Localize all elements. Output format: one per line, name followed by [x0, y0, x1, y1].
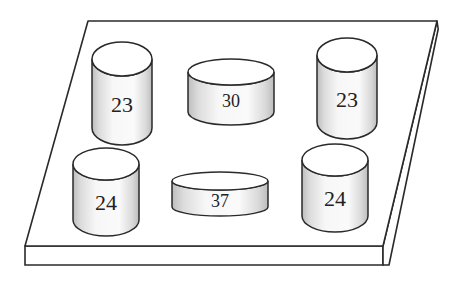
diagram-canvas: 233023243724 — [0, 0, 462, 284]
plate-diagram: 233023243724 — [0, 0, 462, 284]
cyl-top-right: 23 — [317, 38, 377, 139]
cylinder-label: 24 — [95, 190, 117, 215]
cylinder-top — [302, 144, 368, 176]
cyl-bottom-center: 37 — [172, 172, 268, 216]
cylinder-top — [172, 172, 268, 190]
cyl-top-center: 30 — [188, 59, 274, 125]
cylinder-top — [92, 42, 152, 76]
cylinder-top — [188, 59, 274, 85]
cylinder-top — [73, 148, 139, 180]
cyl-top-left: 23 — [92, 42, 152, 145]
cylinder-label: 24 — [324, 186, 346, 211]
cylinder-label: 30 — [222, 91, 240, 111]
cyl-bottom-right: 24 — [302, 144, 368, 232]
cylinder-label: 37 — [211, 191, 229, 211]
cyl-bottom-left: 24 — [73, 148, 139, 236]
plate-front-face — [25, 246, 383, 265]
cylinder-top — [317, 38, 377, 72]
cylinder-label: 23 — [111, 92, 133, 117]
cylinder-label: 23 — [336, 87, 358, 112]
